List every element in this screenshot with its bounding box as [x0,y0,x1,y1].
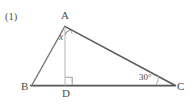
vertex-label-a: A [61,10,69,21]
vertex-label-b: B [21,81,28,92]
geometry-canvas [0,0,190,105]
angle-label-30-degrees: 30° [139,73,152,82]
right-angle-marker-d [66,77,73,85]
angle-arc-a [65,30,70,35]
angle-arc-c [156,76,159,85]
vertex-label-c: C [177,81,184,92]
vertex-label-d: D [62,88,70,99]
angle-label-x: x [59,33,63,43]
geometry-figure: (1) A B C D x 30° [0,0,190,105]
item-number-label: (1) [5,12,17,23]
